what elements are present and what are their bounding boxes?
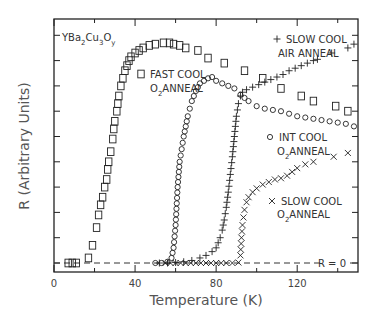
plus-marker-icon <box>274 36 281 43</box>
series-annotations: YBa2Cu3OyFAST COOLO2ANNEALSLOW COOLAIR A… <box>61 32 347 224</box>
x-tick-label: 40 <box>129 278 142 289</box>
compound-formula-label: YBa2Cu3Oy <box>61 32 115 47</box>
x-tick-label: 120 <box>288 278 307 289</box>
square-marker-icon <box>138 70 144 78</box>
series-cross <box>162 150 350 266</box>
x-tick-labels: 04080120 <box>51 278 307 289</box>
x-axis-title: Temperature (K) <box>148 292 262 308</box>
x-tick-label: 0 <box>51 278 57 289</box>
slow-cool-air-label-line1: SLOW COOL <box>286 34 347 45</box>
circle-marker-icon <box>267 134 272 139</box>
cross-marker-icon <box>269 198 275 204</box>
series-circle <box>153 74 357 265</box>
r-zero-label: R = 0 <box>318 258 346 269</box>
slow-cool-o2-label-line1: SLOW COOL <box>281 196 342 207</box>
fast-cool-label-line1: FAST COOL <box>150 69 206 80</box>
fast-cool-label-line2: O2ANNEAL <box>150 83 203 98</box>
y-axis-title: R (Arbitrary Units) <box>16 82 32 209</box>
slow-cool-air-label-line2: AIR ANNEAL <box>278 48 339 59</box>
int-cool-label-line1: INT COOL <box>279 132 327 143</box>
int-cool-label-line2: O2ANNEAL <box>277 146 330 161</box>
chart-svg: 04080120 R = 0 YBa2Cu3OyFAST COOLO2ANNEA… <box>0 0 374 325</box>
resistance-vs-temperature-chart: 04080120 R = 0 YBa2Cu3OyFAST COOLO2ANNEA… <box>0 0 374 325</box>
x-tick-label: 80 <box>210 278 223 289</box>
slow-cool-o2-label-line2: O2ANNEAL <box>277 209 330 224</box>
